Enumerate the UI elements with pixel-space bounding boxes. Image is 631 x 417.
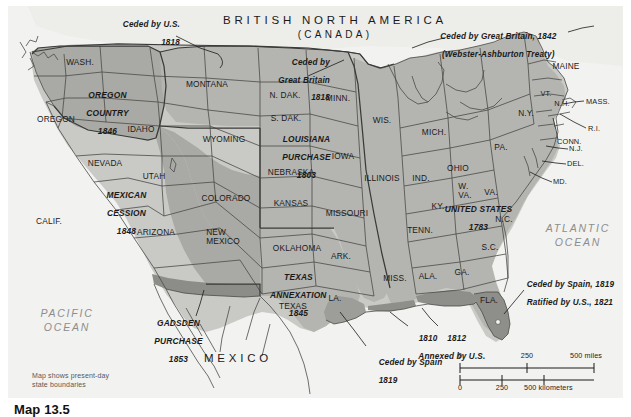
oregon-country-l2: COUNTRY [86,108,128,118]
label-canada: (CANADA) [298,30,373,41]
label-texas-annexation: TEXAS ANNEXATION 1845 [255,264,326,328]
state-label-del: DEL. [567,160,584,168]
united-states-l1: UNITED STATES [445,204,512,214]
mexican-cession-l1: MEXICAN [107,190,147,200]
state-label-n-c: N.C. [495,215,512,224]
webster-ashburton-l1: Ceded by Great Britain, 1842 [440,32,556,41]
state-label-maine: MAINE [552,62,579,71]
ceded-us-1818-l1: Ceded by U.S. [123,20,180,29]
scale-miles-tick-500: 500 miles [570,352,602,360]
state-label-ind: IND. [412,174,429,183]
state-label-minn: MINN. [326,94,350,103]
ceded-spain-ratified-l2: Ratified by U.S., 1821 [527,298,613,307]
state-label-n-h: N.H. [554,100,569,108]
state-label-oklahoma: OKLAHOMA [273,244,321,253]
ceded-gb-1818-l2: Great Britain [278,76,330,85]
state-label-calif: CALIF. [36,217,62,226]
state-label-texas: TEXAS [279,302,307,311]
scale-km-tick-500: 500 kilometers [524,384,573,392]
mexican-cession-l3: 1848 [117,226,136,236]
state-label-ark: ARK. [331,252,351,261]
texas-annexation-l2: ANNEXATION [270,290,326,300]
label-pacific-ocean: PACIFICOCEAN [22,306,112,334]
label-mexico: MEXICO [204,352,272,364]
state-label-oregon: OREGON [37,115,75,124]
state-label-idaho: IDAHO [127,125,154,134]
state-label-mass: MASS. [586,98,610,106]
state-label-nevada: NEVADA [88,159,123,168]
ceded-spain-ratified-l1: Ceded by Spain, 1819 [527,280,614,289]
state-label-arizona: ARIZONA [137,228,175,237]
state-label-pa: PA. [494,143,507,152]
state-label-ga: GA. [455,268,470,277]
state-label-wyoming: WYOMING [203,135,246,144]
state-label-kansas: KANSAS [274,199,309,208]
state-label-tenn: TENN. [407,226,433,235]
state-label-vt: VT. [540,90,551,98]
gadsden-purchase-l2: PURCHASE [154,336,202,346]
gadsden-purchase-l1: GADSDEN [157,318,200,328]
state-label-miss: MISS. [383,274,406,283]
annexed-us-l1: 1810 1812 [419,334,467,343]
state-label-n-j: N.J. [569,145,583,153]
state-label-illinois: ILLINOIS [364,174,399,183]
scale-miles-tick-250: 250 [521,352,533,360]
state-label-ala: ALA. [419,272,438,281]
state-label-la: LA. [329,294,342,303]
scale-km-tick-250: 250 [496,384,508,392]
state-label-n-y: N.Y. [518,109,534,118]
pacific-line-1: PACIFIC [40,307,93,319]
state-label-utah: UTAH [143,172,166,181]
louisiana-purchase-l2: PURCHASE [282,152,330,162]
scale-km-tick-0: 0 [458,384,462,392]
state-label-w-va: W. VA. [458,182,471,199]
state-label-s-c: S.C. [482,243,499,252]
state-label-s-dak: S. DAK. [271,114,302,123]
state-label-missouri: MISSOURI [326,209,368,218]
annotation-ceded-by-us-1818: Ceded by U.S. 1818 [102,12,180,56]
label-atlantic-ocean: ATLANTICOCEAN [532,221,623,249]
state-label-nebraska: NEBRASKA [268,168,315,177]
atlantic-line-2: OCEAN [555,236,601,248]
state-label-n-dak: N. DAK. [269,91,300,100]
united-states-l2: 1783 [469,222,488,232]
ceded-spain-1819-l1: Ceded by Spain [379,358,443,367]
state-label-ohio: OHIO [447,164,469,173]
pacific-line-2: OCEAN [44,321,90,333]
atlantic-line-1: ATLANTIC [546,222,610,234]
state-label-colorado: COLORADO [202,194,251,203]
annotation-ceded-by-spain-1819: Ceded by Spain 1819 [364,350,442,394]
state-label-wis: WIS. [373,116,392,125]
louisiana-purchase-l1: LOUISIANA [283,134,331,144]
ceded-us-1818-l2: 1818 [161,38,180,47]
state-label-iowa: IOWA [332,152,354,161]
new-mexico-line-1: NEW MEXICO [206,227,240,246]
mexican-cession-l2: CESSION [107,208,146,218]
state-label-va: VA. [484,188,497,197]
state-label-ky: KY. [432,202,445,211]
webster-ashburton-l2: (Webster-Ashburton Treaty) [442,50,555,59]
oregon-country-l1: OREGON [88,90,126,100]
state-label-fla: FLA. [480,296,498,305]
state-label-md: MD. [553,178,567,186]
ceded-spain-1819-l2: 1819 [379,376,398,385]
ceded-gb-1818-l1: Ceded by [292,58,330,67]
state-label-r-i: R.I. [588,125,600,133]
annotation-ceded-by-great-britain-1818: Ceded by Great Britain 1818 [260,50,330,112]
label-louisiana-purchase: LOUISIANA PURCHASE 1803 [267,126,330,190]
w-va-line: W. VA. [458,181,471,200]
state-label-mich: MICH. [422,128,446,137]
label-oregon-country: OREGON COUNTRY 1846 [71,82,128,146]
oregon-country-l3: 1846 [98,126,117,136]
annotation-webster-ashburton: Ceded by Great Britain, 1842 (Webster-As… [412,24,570,68]
annotation-ceded-by-spain-1819-ratified: Ceded by Spain, 1819 Ratified by U.S., 1… [512,272,614,316]
label-gadsden-purchase: GADSDEN PURCHASE 1853 [139,310,202,374]
map-panel: .ln { fill:none; stroke:#4a4a48; stroke-… [8,6,623,398]
state-label-montana: MONTANA [186,80,228,89]
figure-caption: Map 13.5 [14,402,70,417]
state-label-wash: WASH. [66,58,94,67]
gadsden-purchase-l3: 1853 [169,354,188,364]
state-label-new-mexico: NEW MEXICO [206,228,240,247]
texas-annexation-l1: TEXAS [284,272,313,282]
